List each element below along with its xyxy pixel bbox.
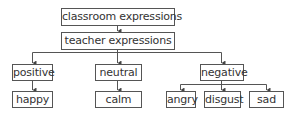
node-neutral: neutral xyxy=(95,64,142,81)
node-disgust: disgust xyxy=(204,91,241,108)
node-happy: happy xyxy=(12,91,53,108)
node-positive: positive xyxy=(12,64,53,81)
node-sad: sad xyxy=(249,91,284,108)
node-teacher-expressions: teacher expressions xyxy=(61,32,175,50)
node-classroom-expressions: classroom expressions xyxy=(61,8,175,26)
node-angry: angry xyxy=(166,91,196,108)
node-calm: calm xyxy=(95,91,142,108)
node-negative: negative xyxy=(200,64,244,81)
